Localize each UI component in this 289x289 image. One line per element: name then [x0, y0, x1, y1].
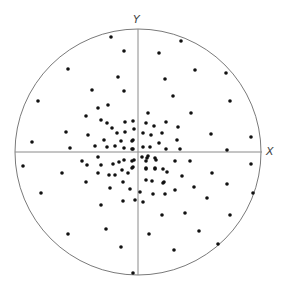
- data-point: [189, 111, 193, 115]
- data-point: [165, 170, 169, 174]
- data-point: [188, 159, 192, 163]
- data-point: [171, 94, 175, 98]
- data-point: [144, 159, 148, 163]
- scatter-circle-diagram: [0, 0, 289, 289]
- data-point: [163, 77, 167, 81]
- data-point: [119, 245, 123, 249]
- data-point: [141, 200, 145, 204]
- data-point: [30, 140, 34, 144]
- data-point: [90, 88, 94, 92]
- data-point: [180, 174, 184, 178]
- data-point: [133, 198, 137, 202]
- data-point: [93, 144, 97, 148]
- data-point: [130, 147, 134, 151]
- data-point: [161, 167, 165, 171]
- data-point: [105, 145, 109, 149]
- data-point: [68, 146, 72, 150]
- data-point: [140, 155, 144, 159]
- data-point: [172, 248, 176, 252]
- data-point: [107, 173, 111, 177]
- data-point: [225, 148, 229, 152]
- data-point: [144, 121, 148, 125]
- data-point: [151, 192, 155, 196]
- data-point: [121, 199, 125, 203]
- data-point: [122, 146, 126, 150]
- data-point: [251, 191, 255, 195]
- data-point: [99, 203, 103, 207]
- data-point: [138, 190, 142, 194]
- y-axis-label: Y: [133, 14, 140, 25]
- data-point: [110, 126, 114, 130]
- data-point: [147, 232, 151, 236]
- data-point: [192, 185, 196, 189]
- data-point: [173, 188, 177, 192]
- data-point: [146, 111, 150, 115]
- data-point: [228, 99, 232, 103]
- x-axis-label: X: [266, 146, 274, 157]
- data-point: [106, 103, 110, 107]
- data-point: [104, 227, 108, 231]
- data-point: [130, 139, 134, 143]
- data-point: [249, 162, 253, 166]
- data-point: [122, 49, 126, 53]
- data-point: [96, 106, 100, 110]
- data-point: [176, 125, 180, 129]
- data-point: [60, 171, 64, 175]
- data-point: [130, 159, 134, 163]
- data-point: [216, 242, 220, 246]
- data-point: [99, 118, 103, 122]
- data-point: [66, 232, 70, 236]
- data-point: [164, 147, 168, 151]
- data-point: [175, 138, 179, 142]
- data-point: [117, 160, 121, 164]
- data-point: [123, 120, 127, 124]
- data-point: [126, 171, 130, 175]
- data-point: [132, 127, 136, 131]
- data-point: [148, 145, 152, 149]
- data-point: [249, 135, 253, 139]
- data-point: [153, 166, 157, 170]
- data-point: [149, 133, 153, 137]
- data-point: [96, 155, 100, 159]
- data-point: [115, 131, 119, 135]
- data-point: [131, 271, 135, 275]
- data-point: [119, 139, 123, 143]
- data-point: [228, 213, 232, 217]
- data-point: [144, 167, 148, 171]
- data-point: [36, 99, 40, 103]
- data-point: [178, 147, 182, 151]
- data-point: [144, 178, 148, 182]
- data-point: [85, 163, 89, 167]
- data-point: [163, 192, 167, 196]
- data-point: [209, 132, 213, 136]
- data-point: [183, 211, 187, 215]
- data-point: [113, 144, 117, 148]
- data-point: [130, 166, 134, 170]
- data-point: [128, 187, 132, 191]
- data-point: [111, 162, 115, 166]
- data-point: [121, 180, 125, 184]
- data-point: [102, 138, 106, 142]
- data-point: [120, 168, 124, 172]
- data-point: [173, 159, 177, 163]
- data-point: [122, 89, 126, 93]
- data-point: [123, 130, 127, 134]
- data-point: [84, 114, 88, 118]
- data-point: [113, 173, 117, 177]
- data-point: [154, 158, 158, 162]
- data-point: [224, 71, 228, 75]
- data-point: [157, 141, 161, 145]
- data-point: [80, 159, 84, 163]
- data-point: [84, 180, 88, 184]
- data-point: [141, 131, 145, 135]
- data-point: [179, 39, 183, 43]
- data-point: [152, 124, 156, 128]
- data-point: [160, 213, 164, 217]
- data-point: [109, 35, 113, 39]
- data-point: [225, 182, 229, 186]
- data-point: [116, 75, 120, 79]
- data-point: [105, 121, 109, 125]
- data-point: [193, 68, 197, 72]
- data-point: [39, 191, 43, 195]
- data-point: [164, 120, 168, 124]
